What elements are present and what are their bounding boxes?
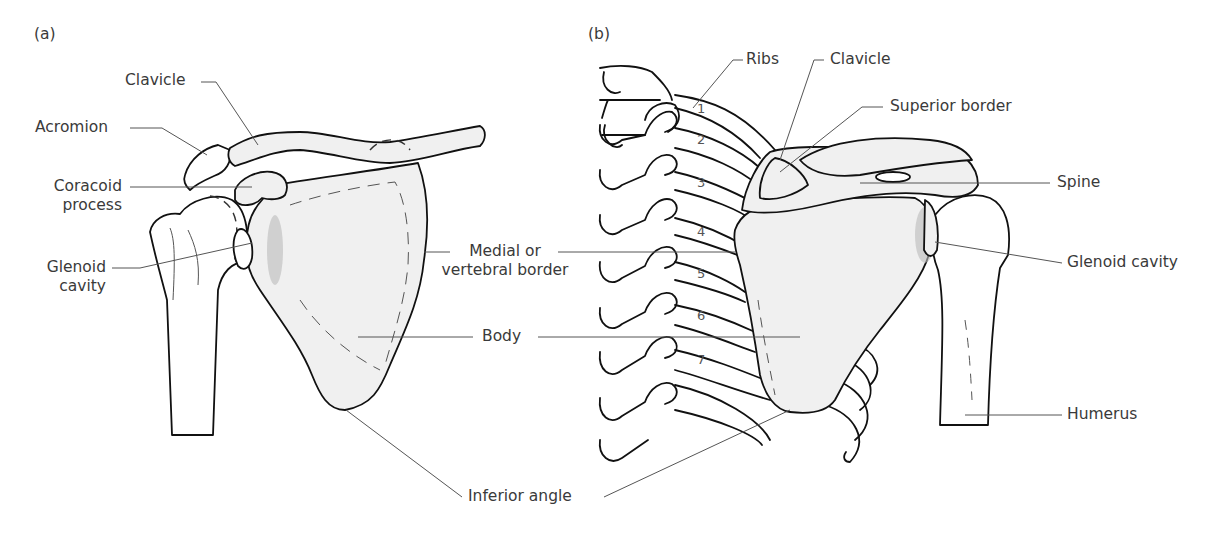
label-medial-border: Medial or vertebral border [430, 242, 580, 280]
rib-number-2: 2 [697, 132, 705, 147]
label-acromion: Acromion [35, 118, 108, 137]
label-clavicle-a: Clavicle [125, 71, 185, 90]
scapula-a [234, 163, 428, 410]
label-coracoid-line1: Coracoid [30, 177, 122, 196]
clavicle-a [228, 126, 484, 166]
label-ribs: Ribs [746, 50, 779, 69]
panel-b-drawing: 1 2 3 4 5 6 7 [600, 66, 1009, 462]
panel-label-a: (a) [34, 25, 56, 43]
rib-number-3: 3 [697, 175, 705, 190]
rib-number-1: 1 [697, 101, 705, 116]
vertebra [602, 100, 679, 147]
label-medial-line1: Medial or [430, 242, 580, 261]
label-glenoid-line2: cavity [20, 277, 106, 296]
humerus-a [150, 196, 247, 435]
label-glenoid-cavity-a: Glenoid cavity [20, 258, 106, 296]
rib-number-5: 5 [697, 266, 705, 281]
scapula-b [734, 197, 938, 413]
rib-number-6: 6 [697, 308, 705, 323]
label-glenoid-cavity-b: Glenoid cavity [1067, 253, 1178, 272]
label-coracoid-process: Coracoid process [30, 177, 122, 215]
vertebrae [600, 66, 679, 147]
label-spine: Spine [1057, 173, 1100, 192]
acromion-a [184, 145, 230, 190]
label-medial-line2: vertebral border [430, 261, 580, 280]
label-glenoid-line1: Glenoid [20, 258, 106, 277]
rib-number-7: 7 [697, 352, 705, 367]
label-inferior-angle: Inferior angle [468, 487, 572, 506]
panel-label-b: (b) [588, 25, 610, 43]
rib-number-4: 4 [697, 224, 705, 239]
label-coracoid-line2: process [30, 196, 122, 215]
panel-a-drawing [150, 126, 485, 435]
label-superior-border: Superior border [890, 97, 1012, 116]
label-humerus: Humerus [1067, 405, 1137, 424]
humerus-b [932, 195, 1009, 425]
label-body: Body [482, 327, 521, 346]
label-clavicle-b: Clavicle [830, 50, 890, 69]
